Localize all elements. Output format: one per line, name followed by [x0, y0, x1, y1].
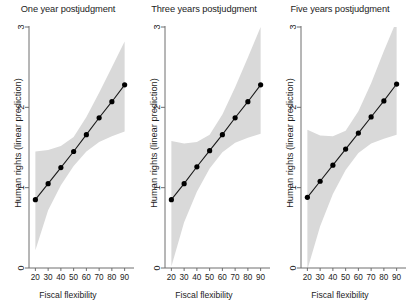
y-tick-label: 1 — [288, 185, 298, 190]
y-tick-label: 0 — [16, 265, 26, 270]
x-tick-label: 30 — [316, 273, 326, 282]
x-tick-label: 60 — [82, 273, 92, 282]
x-tick-label: 20 — [31, 273, 41, 282]
x-tick-label: 70 — [231, 273, 241, 282]
data-point-marker — [84, 132, 89, 137]
x-tick-label: 50 — [205, 273, 215, 282]
data-point-marker — [207, 148, 212, 153]
x-tick-label: 40 — [56, 273, 66, 282]
data-point-marker — [220, 132, 225, 137]
y-tick-label: 0 — [288, 265, 298, 270]
x-axis-label: Fiscal flexibility — [136, 290, 272, 300]
x-axis-label: Fiscal flexibility — [0, 290, 136, 300]
data-point-marker — [109, 99, 114, 104]
x-tick-label: 40 — [328, 273, 338, 282]
data-point-marker — [369, 114, 374, 119]
x-tick-label: 80 — [243, 273, 253, 282]
data-point-marker — [330, 163, 335, 168]
y-tick-label: 0 — [152, 265, 162, 270]
data-point-marker — [97, 115, 102, 120]
data-point-marker — [233, 115, 238, 120]
data-point-marker — [356, 130, 361, 135]
confidence-band — [35, 41, 124, 250]
y-tick-label: 3 — [152, 24, 162, 29]
data-point-marker — [258, 82, 263, 87]
x-tick-label: 30 — [180, 273, 190, 282]
y-tick-label: 1 — [16, 185, 26, 190]
x-tick-label: 30 — [44, 273, 54, 282]
confidence-band — [307, 21, 396, 270]
data-point-marker — [46, 181, 51, 186]
plot-area: 01232030405060708090 — [0, 0, 136, 306]
x-tick-label: 90 — [256, 273, 266, 282]
data-point-marker — [58, 165, 63, 170]
data-point-marker — [305, 195, 310, 200]
y-tick-label: 2 — [152, 105, 162, 110]
y-tick-label: 2 — [16, 105, 26, 110]
x-tick-label: 40 — [192, 273, 202, 282]
y-tick-label: 1 — [152, 185, 162, 190]
x-tick-label: 20 — [167, 273, 177, 282]
x-axis-label: Fiscal flexibility — [272, 290, 408, 300]
data-point-marker — [33, 197, 38, 202]
x-tick-label: 70 — [367, 273, 377, 282]
data-point-marker — [194, 164, 199, 169]
panel-one-year: One year postjudgment Human rights (line… — [0, 0, 136, 306]
data-point-marker — [71, 149, 76, 154]
x-tick-label: 60 — [354, 273, 364, 282]
data-point-marker — [381, 98, 386, 103]
plot-area: 01232030405060708090 — [136, 0, 272, 306]
x-tick-label: 80 — [379, 273, 389, 282]
data-point-marker — [122, 82, 127, 87]
x-tick-label: 20 — [303, 273, 313, 282]
x-tick-label: 50 — [341, 273, 351, 282]
panel-three-years: Three years postjudgment Human rights (l… — [136, 0, 272, 306]
plot-area: 01232030405060708090 — [272, 0, 408, 306]
figure-canvas: One year postjudgment Human rights (line… — [0, 0, 410, 306]
x-tick-label: 60 — [218, 273, 228, 282]
data-point-marker — [182, 181, 187, 186]
x-tick-label: 50 — [69, 273, 79, 282]
confidence-band — [171, 27, 260, 266]
y-tick-label: 3 — [16, 24, 26, 29]
panel-five-years: Five years postjudgment Human rights (li… — [272, 0, 408, 306]
x-tick-label: 90 — [120, 273, 130, 282]
data-point-marker — [245, 99, 250, 104]
data-point-marker — [394, 81, 399, 86]
x-tick-label: 90 — [392, 273, 402, 282]
x-tick-label: 70 — [95, 273, 105, 282]
y-tick-label: 3 — [288, 24, 298, 29]
data-point-marker — [318, 179, 323, 184]
data-point-marker — [169, 197, 174, 202]
x-tick-label: 80 — [107, 273, 117, 282]
data-point-marker — [343, 147, 348, 152]
y-tick-label: 2 — [288, 105, 298, 110]
